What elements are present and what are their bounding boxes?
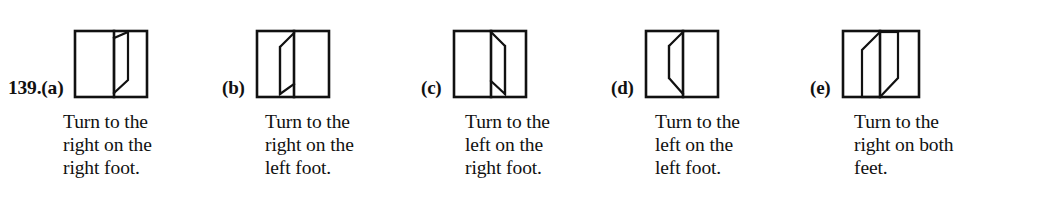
option-e-caption: Turn to the right on both feet. [854,110,953,179]
option-d[interactable]: (d) Turn to the left on the left foot. [608,0,788,218]
option-a[interactable]: 139.(a) Turn to the right on the right f… [8,0,208,218]
option-e-figure-row: (e) [810,28,922,100]
option-a-caption: Turn to the right on the right foot. [63,110,152,179]
option-c-figure-row: (c) [421,28,529,100]
option-a-label: 139.(a) [8,78,63,101]
option-d-label: (d) [611,78,634,100]
option-e[interactable]: (e) Turn to the right on both feet. [800,0,1000,218]
option-b-figure-row: (b) [222,28,332,100]
option-c[interactable]: (c) Turn to the left on the right foot. [417,0,597,218]
folded-flap-square-d [643,28,721,100]
option-a-figure-row: 139.(a) [8,28,150,100]
folded-flap-square-a [72,28,150,100]
option-b-caption: Turn to the right on the left foot. [265,110,354,179]
folded-flap-square-e [840,28,922,100]
option-d-caption: Turn to the left on the left foot. [655,110,740,179]
option-b-label: (b) [222,78,245,100]
option-d-figure-row: (d) [611,28,721,100]
question-options-row: 139.(a) Turn to the right on the right f… [0,0,1046,218]
folded-flap-square-c [451,28,529,100]
option-c-caption: Turn to the left on the right foot. [465,110,550,179]
option-c-label: (c) [421,78,442,100]
option-b[interactable]: (b) Turn to the right on the left foot. [222,0,402,218]
option-e-label: (e) [810,78,831,100]
folded-flap-square-b [254,28,332,100]
